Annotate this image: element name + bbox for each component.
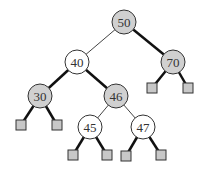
node-46: 46 [104, 84, 128, 108]
leaf-square [16, 120, 26, 130]
node-45: 45 [78, 115, 102, 139]
leaf-square [147, 83, 157, 93]
leaf-square [52, 120, 62, 130]
leaf-square [121, 151, 131, 161]
leaf-square [156, 150, 166, 160]
node-label: 50 [118, 15, 131, 30]
node-40: 40 [65, 50, 89, 74]
leaf-square [102, 150, 112, 160]
binary-tree-diagram: 50 40 70 30 46 45 47 [0, 0, 205, 182]
leaf-square [183, 83, 193, 93]
node-label: 47 [137, 120, 151, 135]
node-label: 40 [71, 55, 84, 70]
node-47: 47 [131, 115, 155, 139]
node-label: 70 [167, 55, 180, 70]
node-50: 50 [112, 10, 136, 34]
node-label: 46 [110, 89, 124, 104]
node-label: 30 [34, 89, 47, 104]
node-label: 45 [84, 120, 97, 135]
node-30: 30 [28, 84, 52, 108]
node-70: 70 [161, 50, 185, 74]
leaf-square [68, 150, 78, 160]
